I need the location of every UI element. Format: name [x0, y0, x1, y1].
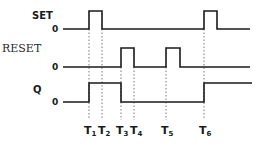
time-label-t2: T2 — [98, 124, 111, 138]
zero-label-set: 0 — [52, 24, 58, 34]
time-labels: T1 T2 T3 T4 T5 T6 — [84, 124, 212, 138]
time-label-t3: T3 — [116, 124, 129, 138]
time-label-t4: T4 — [130, 124, 143, 138]
waveform-q — [63, 83, 252, 102]
zero-label-q: 0 — [52, 97, 58, 107]
time-label-t1: T1 — [84, 124, 97, 138]
signal-label-q: Q — [33, 84, 42, 95]
signal-label-reset: RESET — [2, 42, 42, 55]
waveform-reset — [63, 48, 250, 67]
waveform-set — [63, 11, 250, 29]
signal-label-set: SET — [32, 10, 53, 21]
timing-diagram: SET RESET Q 0 0 0 T1 T2 T3 T4 T5 T6 — [0, 0, 268, 147]
time-guides — [89, 29, 204, 120]
time-label-t6: T6 — [199, 124, 212, 138]
zero-label-reset: 0 — [52, 62, 58, 72]
time-label-t5: T5 — [161, 124, 174, 138]
